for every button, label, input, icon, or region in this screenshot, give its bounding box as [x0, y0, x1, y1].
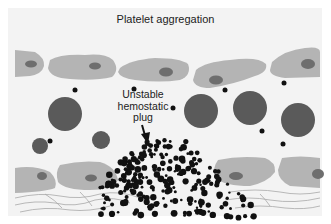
nucleus — [25, 61, 37, 68]
nucleus — [37, 172, 47, 180]
figure-title: Platelet aggregation — [0, 13, 331, 25]
nucleus — [301, 59, 315, 69]
nucleus — [229, 172, 243, 180]
endothelial-cell — [48, 55, 116, 80]
annotation-line: plug — [113, 112, 173, 124]
nucleus — [209, 76, 223, 85]
nucleus — [159, 68, 173, 77]
plug-annotation: Unstable hemostatic plug — [113, 89, 173, 124]
nucleus — [312, 169, 324, 179]
nucleus — [85, 175, 97, 182]
annotation-line: Unstable — [113, 89, 173, 101]
nucleus — [89, 63, 101, 70]
